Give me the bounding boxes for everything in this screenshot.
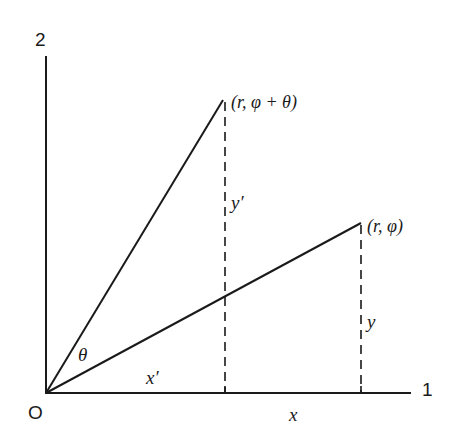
point-original-text: (r, φ)	[367, 216, 403, 236]
point-original-label: (r, φ)	[367, 217, 403, 235]
point-rotated-text: (r, φ + θ)	[231, 92, 297, 112]
x-axis-label: 1	[422, 380, 433, 399]
origin-label: O	[28, 403, 43, 422]
y-axis-label: 2	[35, 30, 46, 49]
ray-original	[46, 223, 361, 393]
y-prime-label: y′	[231, 193, 244, 212]
x-prime-label: x′	[146, 368, 159, 387]
ray-rotated	[46, 100, 223, 393]
point-rotated-label: (r, φ + θ)	[231, 93, 297, 111]
theta-label: θ	[78, 345, 87, 364]
x-label: x	[289, 405, 297, 424]
y-label: y	[367, 312, 375, 331]
